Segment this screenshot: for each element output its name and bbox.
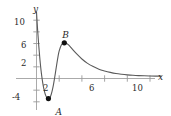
point-label-a: A	[55, 108, 62, 116]
y-axis-label: y	[33, 5, 38, 14]
x-tick-label-6: 6	[89, 84, 94, 93]
point-label-b: B	[62, 31, 69, 40]
y-tick-label-6: 6	[21, 41, 26, 50]
x-tick-label-10: 10	[132, 84, 143, 93]
marked-points-group	[46, 40, 67, 101]
data-point-b	[62, 40, 67, 45]
data-point-a	[46, 96, 51, 101]
y-tick-label-neg4: -4	[12, 93, 20, 102]
y-tick-label-10: 10	[14, 18, 25, 27]
x-axis-label: x	[158, 73, 163, 82]
graph-figure: x y 10 6 2 -4 2 6 10 A B	[0, 0, 171, 116]
y-tick-label-2: 2	[21, 59, 26, 68]
x-tick-label-2: 2	[43, 84, 48, 93]
